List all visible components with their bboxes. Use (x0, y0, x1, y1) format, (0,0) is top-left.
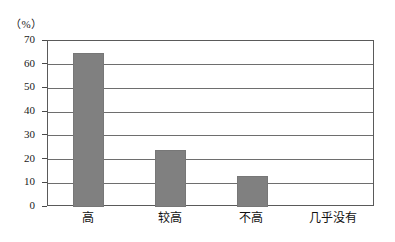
x-axis-tick-label: 较高 (130, 211, 210, 225)
y-axis-tick-label: 40 (9, 105, 35, 116)
bar-chart: （%） 010203040506070 高较高不高几乎没有 (0, 0, 395, 242)
y-axis-tick-label: 70 (9, 34, 35, 45)
y-axis-tick-mark (42, 158, 47, 159)
y-axis-tick-label: 10 (9, 176, 35, 187)
bar (237, 176, 268, 207)
y-axis-tick-mark (42, 63, 47, 64)
y-axis-tick-label: 60 (9, 58, 35, 69)
y-axis-tick-mark (42, 111, 47, 112)
bar (73, 53, 104, 207)
x-axis-tick-label: 几乎没有 (293, 211, 373, 225)
y-axis-tick-label: 50 (9, 81, 35, 92)
y-axis-tick-mark (42, 87, 47, 88)
y-axis-tick-label: 30 (9, 129, 35, 140)
y-axis-tick-mark (42, 206, 47, 207)
y-axis-tick-label: 20 (9, 153, 35, 164)
plot-area (47, 40, 374, 206)
x-axis-tick-label: 不高 (211, 211, 291, 225)
bar (155, 150, 186, 207)
y-axis-tick-mark (42, 40, 47, 41)
y-axis-tick-mark (42, 182, 47, 183)
y-axis-tick-mark (42, 134, 47, 135)
x-axis-tick-label: 高 (48, 211, 128, 225)
y-axis-unit-label: （%） (10, 18, 43, 30)
y-axis-tick-label: 0 (9, 200, 35, 211)
